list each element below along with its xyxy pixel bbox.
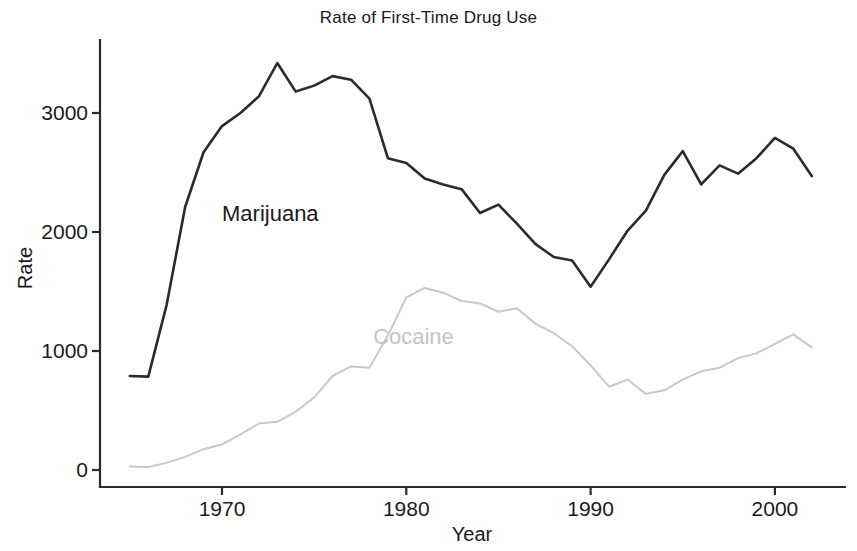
series-group (130, 63, 812, 467)
chart-container: Rate of First-Time Drug Use 010002000300… (0, 0, 857, 551)
series-line-cocaine (130, 288, 812, 467)
y-tick-label: 3000 (41, 101, 88, 124)
y-tick-label-group: 0100020003000 (41, 101, 88, 481)
line-chart: 0100020003000 1970198019902000 Rate Year… (0, 0, 857, 551)
y-tick-label: 0 (76, 458, 88, 481)
x-tick-label: 1990 (567, 497, 614, 520)
x-tick-label: 1980 (383, 497, 430, 520)
x-tick-label-group: 1970198019902000 (199, 497, 799, 520)
y-tick-label: 2000 (41, 220, 88, 243)
series-label-group: MarijuanaCocaine (222, 201, 454, 349)
series-label-cocaine: Cocaine (373, 324, 454, 349)
series-label-marijuana: Marijuana (222, 201, 319, 226)
tick-mark-group (92, 113, 775, 495)
x-axis-title: Year (452, 523, 493, 545)
y-axis-title: Rate (14, 247, 36, 289)
x-tick-label: 2000 (752, 497, 799, 520)
x-tick-label: 1970 (199, 497, 246, 520)
y-tick-label: 1000 (41, 339, 88, 362)
